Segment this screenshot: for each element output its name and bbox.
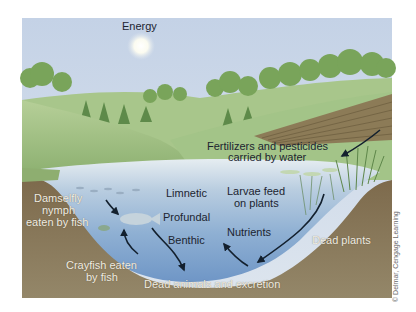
fertilizers-label-line2: carried by water bbox=[228, 151, 306, 163]
benthic-label: Benthic bbox=[168, 234, 205, 246]
nutrients-label: Nutrients bbox=[227, 226, 271, 238]
larvae-label-line2: on plants bbox=[234, 197, 279, 209]
lake-ecosystem-illustration bbox=[0, 0, 416, 312]
damselfly-nymph-icon bbox=[98, 225, 110, 231]
dead-plants-label: Dead plants bbox=[312, 234, 371, 246]
damselfly-label-line1: Damselfly bbox=[34, 192, 82, 204]
damselfly-label-line2: nymph bbox=[42, 204, 75, 216]
copyright-notice: © Delmar, Cengage Learning bbox=[392, 211, 399, 302]
energy-label: Energy bbox=[122, 20, 157, 32]
profundal-label: Profundal bbox=[163, 211, 210, 223]
crayfish-label-line2: by fish bbox=[86, 271, 118, 283]
shore-grass bbox=[22, 168, 60, 182]
larvae-label-line1: Larvae feed bbox=[227, 185, 285, 197]
crayfish-label-line1: Crayfish eaten bbox=[66, 259, 137, 271]
sun-icon bbox=[127, 32, 155, 60]
limnetic-label: Limnetic bbox=[166, 187, 207, 199]
dead-animals-label: Dead animals and excretion bbox=[144, 278, 280, 290]
damselfly-label-line3: eaten by fish bbox=[26, 216, 88, 228]
